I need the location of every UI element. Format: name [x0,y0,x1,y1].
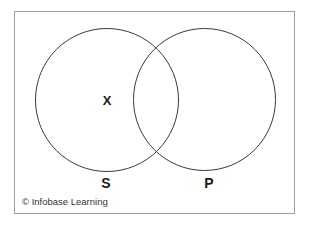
diagram-frame: X S P © Infobase Learning [14,11,295,214]
region-mark-x: X [103,93,112,108]
circle-p-label: P [204,175,213,191]
copyright-text: © Infobase Learning [22,196,108,207]
circle-p [133,28,276,171]
venn-diagram-page: X S P © Infobase Learning [0,0,314,229]
circle-s-label: S [101,175,110,191]
